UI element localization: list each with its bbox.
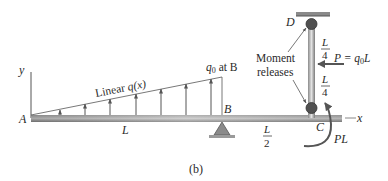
dim-cd-lower-den: 4	[322, 86, 328, 98]
dim-ab: L	[121, 123, 129, 137]
point-a-label: A	[18, 112, 27, 126]
moment-pl-label: PL	[333, 132, 348, 146]
release-leader-top	[288, 28, 306, 52]
dim-bc-den: 2	[264, 137, 270, 149]
hinge-d	[306, 19, 317, 30]
fixed-support-d	[296, 12, 330, 16]
force-p-label: P = q0L	[333, 52, 370, 66]
load-label: Linear q(x)	[94, 77, 147, 100]
y-axis-label: y	[18, 63, 25, 77]
load-max-label: q0 at B	[206, 61, 238, 75]
point-c-label: C	[316, 120, 325, 134]
release-leader-bottom	[293, 80, 306, 103]
dim-cd-upper-den: 4	[322, 49, 328, 61]
frame-diagram: y x	[0, 0, 388, 181]
point-d-label: D	[285, 15, 295, 29]
hinge-c	[306, 103, 317, 114]
x-axis-label: x	[356, 111, 363, 125]
point-b-label: B	[224, 102, 232, 116]
ground-b	[209, 135, 235, 138]
releases-label-1: Moment	[256, 52, 296, 64]
pin-support-b	[214, 122, 230, 135]
figure-caption: (b)	[189, 162, 203, 176]
dim-bc-num: L	[263, 123, 270, 135]
dim-cd-upper-num: L	[321, 36, 328, 48]
releases-label-2: releases	[257, 66, 294, 78]
dim-cd-lower-num: L	[321, 73, 328, 85]
